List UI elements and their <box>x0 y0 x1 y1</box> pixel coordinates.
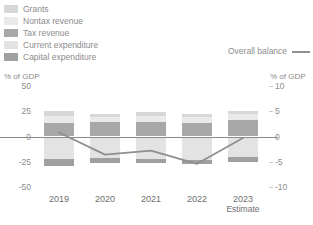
legend-swatch-current-expenditure <box>4 41 18 49</box>
legend-label-capital-expenditure: Capital expenditure <box>23 53 96 62</box>
zero-line-left-extension <box>0 137 36 138</box>
right-tickmark-10 <box>269 86 273 87</box>
legend-item-current-expenditure: Current expenditure <box>4 39 98 51</box>
overall-balance-line <box>36 86 266 187</box>
legend-label-current-expenditure: Current expenditure <box>23 41 98 50</box>
right-tickmark-5 <box>269 111 273 112</box>
x-label-note: Estimate <box>213 204 273 214</box>
legend-label-grants: Grants <box>23 5 49 14</box>
legend-item-nontax-revenue: Nontax revenue <box>4 15 98 27</box>
legend-item-capital-expenditure: Capital expenditure <box>4 51 98 63</box>
left-tick-m50: -50 <box>19 182 31 192</box>
legend-item-overall-balance: Overall balance <box>228 47 310 56</box>
right-tick-m10: -10 <box>275 182 287 192</box>
legend-swatch-grants <box>4 5 18 13</box>
legend-swatch-capital-expenditure <box>4 53 18 61</box>
chart-legend: Grants Nontax revenue Tax revenue Curren… <box>4 3 98 63</box>
legend-item-tax-revenue: Tax revenue <box>4 27 98 39</box>
right-tick-5: 5 <box>275 106 280 116</box>
right-tick-10: 10 <box>275 81 284 91</box>
legend-swatch-overall-balance <box>292 51 310 53</box>
zero-line-right-extension <box>266 137 278 138</box>
plot-area: 50 25 0 -25 -50 10 5 0 -5 -10 <box>36 86 266 187</box>
fiscal-balance-chart: Grants Nontax revenue Tax revenue Curren… <box>0 0 313 225</box>
x-label-year: 2023 <box>213 194 273 204</box>
right-axis-unit-label: % of GDP <box>270 72 306 81</box>
legend-label-overall-balance: Overall balance <box>228 47 287 56</box>
right-tick-m5: -5 <box>275 157 283 167</box>
x-label-2023: 2023Estimate <box>213 194 273 214</box>
left-tick-m25: -25 <box>19 157 31 167</box>
legend-swatch-nontax-revenue <box>4 17 18 25</box>
legend-label-nontax-revenue: Nontax revenue <box>23 17 83 26</box>
legend-swatch-tax-revenue <box>4 29 18 37</box>
left-tick-25: 25 <box>22 106 31 116</box>
right-tickmark-m5 <box>269 162 273 163</box>
left-axis-unit-label: % of GDP <box>4 72 40 81</box>
right-tickmark-m10 <box>269 187 273 188</box>
legend-label-tax-revenue: Tax revenue <box>23 29 69 38</box>
overall-balance-polyline <box>59 132 243 163</box>
left-tick-50: 50 <box>22 81 31 91</box>
legend-item-grants: Grants <box>4 3 98 15</box>
